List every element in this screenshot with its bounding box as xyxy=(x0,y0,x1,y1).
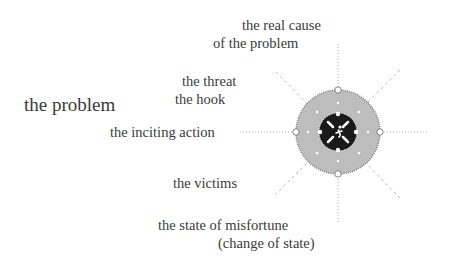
diagram-title: the problem xyxy=(24,96,115,113)
label-real-cause: the real cause xyxy=(242,17,321,34)
label-state-of-misfortune: the state of misfortune xyxy=(158,217,288,234)
label-of-the-problem: of the problem xyxy=(213,35,298,52)
label-victims: the victims xyxy=(173,175,237,192)
label-inciting-action: the inciting action xyxy=(110,124,215,141)
label-hook: the hook xyxy=(175,91,225,108)
label-threat: the threat xyxy=(182,73,236,90)
label-change-of-state: (change of state) xyxy=(218,235,315,252)
